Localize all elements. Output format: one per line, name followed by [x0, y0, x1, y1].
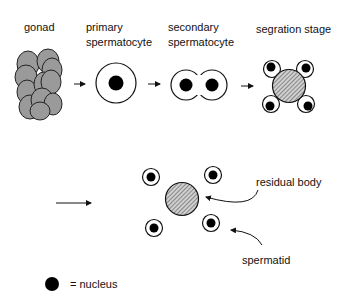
gonad-cell-cluster — [15, 49, 62, 120]
label-primary-2: spermatocyte — [86, 35, 152, 49]
secondary-spermatocyte-cell — [171, 70, 227, 100]
segregation-stage-cell — [263, 61, 315, 113]
label-spermatid: spermatid — [242, 253, 290, 267]
label-secondary-1: secondary — [168, 20, 219, 34]
label-primary-1: primary — [86, 20, 123, 34]
residual-body — [166, 183, 199, 216]
label-segregation-stage: segration stage — [256, 22, 331, 36]
label-residual-body: residual body — [256, 175, 321, 189]
legend-nucleus-dot — [45, 277, 59, 291]
label-secondary-2: spermatocyte — [168, 35, 234, 49]
spermatogenesis-diagram: gonad primary spermatocyte secondary spe… — [0, 0, 345, 299]
legend-label: = nucleus — [70, 277, 117, 291]
primary-spermatocyte-cell — [96, 63, 136, 103]
label-gonad: gonad — [24, 20, 55, 34]
spermatid-pointer — [231, 230, 262, 245]
residual-body-pointer — [206, 190, 258, 202]
